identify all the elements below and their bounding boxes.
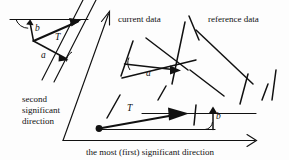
second-axis-label-line2: significant: [22, 105, 60, 115]
construction-oblique-tick-right: [262, 84, 268, 100]
axis-label-second: second significant direction: [22, 94, 60, 126]
first-axis-label: the most (first) significant direction: [86, 147, 214, 157]
reference-data-segment-3: [272, 70, 276, 100]
axis-first-significant-direction: [63, 135, 257, 147]
inset-vector-triangle: b T a: [10, 0, 96, 82]
current-data-segment-4: [122, 60, 196, 78]
current-data-angle-arc: [128, 58, 130, 71]
reference-data-label: reference data: [208, 14, 259, 24]
second-axis-label-line1: second: [22, 94, 47, 104]
reference-data-segment-1: [196, 30, 253, 84]
current-data-segment-1: [121, 41, 133, 76]
current-data-segment-3: [172, 22, 185, 84]
construction-oblique-tick-mid: [158, 86, 166, 100]
group-reference-data: reference data: [189, 14, 276, 104]
construction-oblique-tick-left: [107, 95, 120, 118]
inset-angle-arc-b: [16, 20, 28, 29]
main-vector-construction: T b: [96, 84, 268, 132]
group-current-data: current data a: [118, 14, 196, 84]
construction-vertical-tick: [194, 105, 196, 125]
inset-oblique-line-left: [42, 0, 84, 80]
inset-vector-b-arrowhead: [26, 19, 33, 25]
current-data-vector-a-label: a: [146, 68, 151, 78]
oblique-axis-line: [63, 14, 109, 141]
current-data-label: current data: [118, 14, 161, 24]
axis-second-significant-direction: [63, 12, 110, 141]
main-angle-arc-b: [205, 122, 213, 130]
main-vector-T-label: T: [127, 103, 133, 113]
second-axis-label-line3: direction: [22, 116, 54, 126]
reference-data-segment-5: [240, 74, 248, 104]
main-vector-b-label: b: [216, 111, 221, 121]
inset-oblique-line-right: [54, 0, 96, 82]
reference-data-segment-4: [189, 16, 199, 40]
current-data-segment-2: [146, 38, 188, 70]
diagram-canvas: b T a current data a reference data: [0, 0, 289, 160]
main-vector-T-arrowhead: [168, 108, 189, 121]
reference-data-segment-2: [190, 70, 224, 96]
inset-vector-b-label: b: [35, 23, 40, 33]
inset-vector-T-label: T: [55, 32, 61, 42]
inset-vector-a-label: a: [41, 50, 46, 60]
inset-vector-b-shaft: [30, 23, 34, 42]
